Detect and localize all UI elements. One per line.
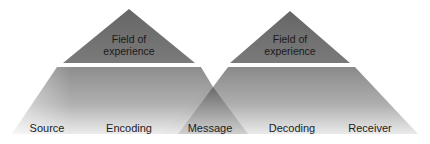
- encoding-label: Encoding: [99, 122, 159, 134]
- separator-band: [0, 63, 430, 67]
- left-field-line1: Field of: [99, 33, 159, 45]
- right-field-line2: experience: [260, 45, 320, 57]
- right-field-line1: Field of: [260, 33, 320, 45]
- decoding-label: Decoding: [262, 122, 322, 134]
- receiver-label: Receiver: [340, 122, 400, 134]
- right-field-of-experience-label: Field of experience: [260, 33, 320, 57]
- left-field-of-experience-label: Field of experience: [99, 33, 159, 57]
- source-label: Source: [22, 122, 72, 134]
- message-label: Message: [180, 122, 240, 134]
- left-field-line2: experience: [99, 45, 159, 57]
- communication-model-diagram: Field of experience Field of experience …: [0, 0, 430, 144]
